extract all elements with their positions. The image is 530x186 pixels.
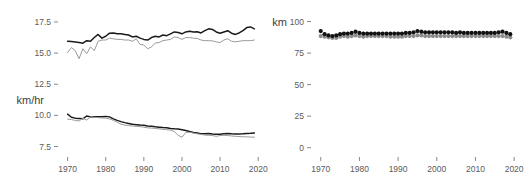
y-tick-label: 15.0 [34, 48, 51, 58]
data-point [504, 35, 508, 39]
data-point [373, 31, 377, 35]
y-tick-label: 17.5 [34, 17, 51, 27]
data-point [439, 34, 443, 38]
data-point [493, 31, 497, 35]
x-tick-label: 2000 [173, 164, 192, 174]
y-tick-label: 75 [295, 48, 305, 58]
series-line-lower-gray-speed [68, 37, 255, 59]
data-point [458, 30, 462, 34]
data-point [423, 34, 427, 38]
y-axis-title-kmhr: km/hr [17, 94, 45, 106]
data-point [353, 30, 357, 34]
data-point [404, 31, 408, 35]
data-point [446, 30, 450, 34]
data-point [350, 31, 354, 35]
data-point [454, 31, 458, 35]
data-point [450, 34, 454, 38]
x-tick-label: 1990 [134, 164, 153, 174]
data-point [357, 31, 361, 35]
data-point [500, 34, 504, 38]
data-point [431, 30, 435, 34]
data-point [384, 31, 388, 35]
distance-panel-svg: 0255075100km197019801990200020102020 [265, 0, 530, 186]
x-tick-label: 1980 [96, 164, 115, 174]
speed-panel: 7.510.012.515.017.5km/hr1970198019902000… [0, 0, 265, 186]
data-point [427, 30, 431, 34]
data-point [411, 30, 415, 34]
data-point [497, 34, 501, 38]
data-point [319, 34, 323, 38]
data-point [462, 31, 466, 35]
data-point [396, 31, 400, 35]
data-point [450, 30, 454, 34]
data-point [427, 34, 431, 38]
data-point [411, 34, 415, 38]
data-point [353, 33, 357, 37]
data-point [477, 31, 481, 35]
data-point [419, 30, 423, 34]
distance-panel: 0255075100km197019801990200020102020 [265, 0, 530, 186]
y-tick-label: 12.5 [34, 79, 51, 89]
data-point [342, 31, 346, 35]
x-tick-label: 2000 [427, 164, 446, 174]
data-point [481, 31, 485, 35]
data-point [435, 34, 439, 38]
data-point [319, 29, 323, 33]
x-tick-label: 1970 [58, 164, 77, 174]
data-point [323, 32, 327, 36]
data-point [361, 31, 365, 35]
figure-root: 7.510.012.515.017.5km/hr1970198019902000… [0, 0, 530, 186]
y-tick-label: 100 [290, 17, 304, 27]
data-point [442, 34, 446, 38]
data-point [415, 33, 419, 37]
data-point [423, 30, 427, 34]
data-point [500, 30, 504, 34]
x-tick-label: 1980 [350, 164, 369, 174]
y-tick-label: 7.5 [39, 142, 51, 152]
data-point [504, 31, 508, 35]
x-tick-label: 2010 [211, 164, 230, 174]
data-point [365, 31, 369, 35]
data-point [377, 31, 381, 35]
data-point [497, 30, 501, 34]
data-point [442, 30, 446, 34]
series-line-upper-black-speed [68, 27, 255, 43]
data-point [346, 31, 350, 35]
y-axis-title-km: km [272, 16, 287, 28]
data-point [392, 31, 396, 35]
data-point [485, 31, 489, 35]
data-point [469, 31, 473, 35]
data-point [489, 31, 493, 35]
data-point [439, 30, 443, 34]
x-tick-label: 1970 [311, 164, 330, 174]
data-point [415, 29, 419, 33]
y-tick-label: 10.0 [34, 110, 51, 120]
x-tick-label: 2020 [505, 164, 524, 174]
data-point [326, 33, 330, 37]
data-point [446, 34, 450, 38]
data-point [388, 31, 392, 35]
data-point [330, 34, 334, 38]
y-tick-label: 0 [299, 143, 304, 153]
data-point [466, 31, 470, 35]
data-point [381, 31, 385, 35]
x-tick-label: 2010 [466, 164, 485, 174]
x-tick-label: 1990 [389, 164, 408, 174]
data-point [334, 33, 338, 37]
data-point [508, 32, 512, 36]
data-point [408, 31, 412, 35]
data-point [473, 31, 477, 35]
speed-panel-svg: 7.510.012.515.017.5km/hr1970198019902000… [0, 0, 265, 186]
data-point [435, 30, 439, 34]
data-point [338, 32, 342, 36]
y-tick-label: 25 [295, 111, 305, 121]
data-point [431, 34, 435, 38]
data-point [369, 31, 373, 35]
data-point [458, 34, 462, 38]
y-tick-label: 50 [295, 80, 305, 90]
data-point [400, 31, 404, 35]
data-point [419, 33, 423, 37]
